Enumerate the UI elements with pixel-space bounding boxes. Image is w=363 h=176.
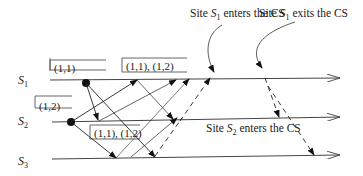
- timeline-s3: [52, 155, 340, 159]
- site-label-s3: S3: [18, 155, 28, 170]
- s2-request-queue-initial: (1,2): [39, 101, 60, 112]
- s1-request-queue-full: (1,1), (1,2): [126, 61, 174, 72]
- timeline-s1: [50, 78, 340, 80]
- annotation-s2-enters-cs: Site S2 enters the CS: [206, 123, 301, 137]
- annotation-s1-exits-cs: Site S1 exits the CS: [259, 8, 348, 22]
- annotation-pointers: [208, 22, 295, 72]
- site-label-s1: S1: [18, 74, 28, 89]
- site-label-s2: S2: [18, 115, 28, 130]
- mutex-timing-diagram: S1 S2 S3 (1,1) (1,2) (1,1), (1,2) (1,1),…: [0, 0, 363, 176]
- diagram-lines: [0, 0, 363, 176]
- reply-messages: [99, 79, 189, 158]
- s2-request-queue-full: (1,1), (1,2): [94, 128, 142, 139]
- s1-request-queue-initial: (1,1): [54, 63, 75, 74]
